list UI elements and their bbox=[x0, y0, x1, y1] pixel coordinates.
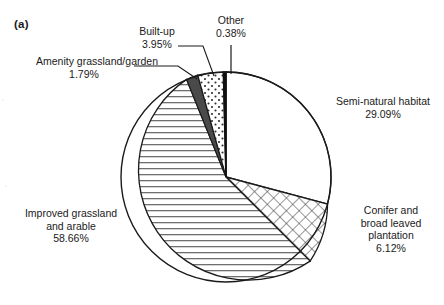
pie-chart-figure: (a) Amenity grassland/garden 1.79% Built… bbox=[0, 0, 444, 305]
label-improved-value: 58.66% bbox=[16, 232, 126, 245]
label-other-name: Other bbox=[205, 14, 257, 27]
label-other: Other 0.38% bbox=[205, 14, 257, 39]
label-amenity-value: 1.79% bbox=[36, 68, 132, 81]
label-conifer-value: 6.12% bbox=[348, 242, 434, 255]
leader-line-amenity bbox=[134, 66, 197, 79]
label-semi-natural-name: Semi-natural habitat bbox=[326, 95, 440, 108]
label-amenity-name: Amenity grassland/garden bbox=[36, 55, 132, 68]
pie-chart-svg bbox=[0, 0, 444, 305]
label-built-up-name: Built-up bbox=[128, 25, 186, 38]
label-amenity-grassland-garden: Amenity grassland/garden 1.79% bbox=[36, 55, 132, 80]
label-conifer-line2: broad leaved bbox=[348, 217, 434, 230]
label-built-up-value: 3.95% bbox=[128, 38, 186, 51]
panel-label: (a) bbox=[14, 18, 29, 30]
label-improved-grassland-and-arable: Improved grassland and arable 58.66% bbox=[16, 207, 126, 245]
leader-line-built-up bbox=[178, 46, 214, 76]
label-conifer-line3: plantation bbox=[348, 229, 434, 242]
label-improved-line1: Improved grassland bbox=[16, 207, 126, 220]
label-conifer-broad-leaved-plantation: Conifer and broad leaved plantation 6.12… bbox=[348, 204, 434, 254]
label-semi-natural-value: 29.09% bbox=[326, 108, 440, 121]
label-conifer-line1: Conifer and bbox=[348, 204, 434, 217]
label-built-up: Built-up 3.95% bbox=[128, 25, 186, 50]
label-improved-line2: and arable bbox=[16, 220, 126, 233]
label-other-value: 0.38% bbox=[205, 27, 257, 40]
label-semi-natural-habitat: Semi-natural habitat 29.09% bbox=[326, 95, 440, 120]
